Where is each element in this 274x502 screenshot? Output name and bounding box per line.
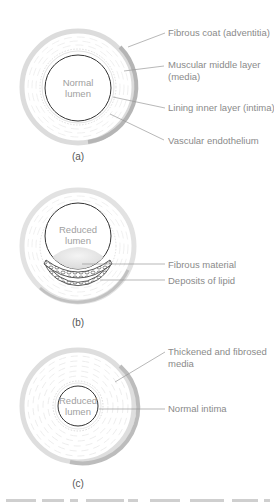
callout-intima: Lining inner layer (intima) [168,102,274,113]
callout-media-line1: Muscular middle layer [168,59,260,70]
lumen-label-line2: lumen [65,406,91,417]
callout-fibrous-material: Fibrous material [168,259,236,270]
panel-a-normal-artery: Normal lumen Fibrous coat (adventitia) M… [22,27,274,162]
callout-adventitia: Fibrous coat (adventitia) [168,27,270,38]
panel-b-atheroma: Reduced lumen Fibrous material Deposits … [22,190,236,328]
callout-thickened-media-line2: media [168,358,195,369]
panel-c-fibrosed-media: Reduced lumen Thickened and fibrosed med… [22,346,267,489]
callout-normal-intima: Normal intima [168,403,227,414]
lumen-label-line1: Reduced [59,395,97,406]
lumen-label-line2: lumen [65,235,91,246]
panel-c-sublabel: (c) [72,478,84,489]
artery-diagram: Normal lumen Fibrous coat (adventitia) M… [0,0,274,502]
lumen-label-line1: Normal [63,77,94,88]
callout-endothelium: Vascular endothelium [168,135,259,146]
panel-a-sublabel: (a) [72,151,84,162]
lumen-label-line2: lumen [65,88,91,99]
panel-b-sublabel: (b) [72,317,84,328]
callout-lipid-deposits: Deposits of lipid [168,275,235,286]
callout-thickened-media-line1: Thickened and fibrosed [168,346,267,357]
lumen-label-line1: Reduced [59,224,97,235]
callout-media-line2: (media) [168,71,200,82]
